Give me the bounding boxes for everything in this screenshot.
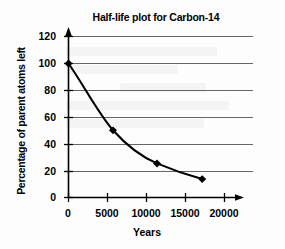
data-point-markers bbox=[65, 60, 207, 184]
decay-curve bbox=[69, 64, 203, 180]
y-axis bbox=[64, 27, 73, 198]
x-axis bbox=[68, 193, 244, 202]
plot-area bbox=[0, 0, 285, 249]
data-point-11460 bbox=[153, 160, 161, 168]
data-point-17190 bbox=[198, 175, 206, 183]
chart-figure: Half-life plot for Carbon-14 Percentage … bbox=[0, 0, 285, 249]
gridlines bbox=[68, 37, 253, 172]
